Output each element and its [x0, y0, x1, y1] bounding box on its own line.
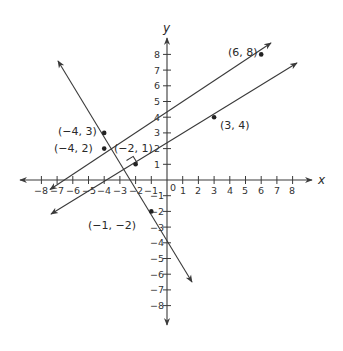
y-axis-label: y: [162, 21, 171, 35]
x-tick-label: 2: [195, 185, 201, 196]
point-6-8: [259, 52, 264, 57]
x-tick-label: 1: [180, 185, 186, 196]
x-tick-label: 5: [242, 185, 248, 196]
point-m4-3: [102, 131, 107, 136]
point-m4-2: [102, 146, 107, 151]
coordinate-graph: x y 0 −8 −7 −6 −5 −4 −3 −2 −1 1 2 3 4 5 …: [0, 0, 343, 351]
y-tick-label: −8: [150, 300, 164, 311]
point-m1-m2: [149, 209, 154, 214]
x-tick-label: −4: [97, 185, 111, 196]
point-3-4: [212, 115, 217, 120]
point-m2-1: [133, 162, 138, 167]
y-tick-label: 7: [154, 65, 160, 76]
x-ticks: −8 −7 −6 −5 −4 −3 −2 −1 1 2 3 4 5 6 7 8: [34, 176, 295, 196]
y-tick-label: −7: [150, 284, 164, 295]
origin-label: 0: [170, 182, 176, 193]
x-tick-label: 8: [289, 185, 295, 196]
x-tick-label: 6: [258, 185, 264, 196]
x-tick-label: −6: [66, 185, 80, 196]
label-m4-3: (−4, 3): [58, 125, 97, 138]
x-tick-label: −7: [50, 185, 64, 196]
label-3-4: (3, 4): [220, 119, 250, 132]
upper-parallel-line: [50, 43, 271, 190]
y-tick-label: 8: [154, 49, 160, 60]
x-axis-label: x: [317, 173, 326, 187]
label-6-8: (6, 8): [228, 46, 258, 59]
label-m1-m2: (−1, −2): [88, 219, 136, 232]
x-tick-label: −3: [113, 185, 127, 196]
x-tick-label: 7: [274, 185, 280, 196]
y-tick-label: −4: [150, 237, 164, 248]
y-tick-label: −1: [150, 190, 164, 201]
label-m2-1: (−2, 1): [114, 142, 153, 155]
x-tick-label: −8: [34, 185, 48, 196]
axes: x y 0: [20, 21, 326, 325]
y-tick-label: −6: [150, 269, 164, 280]
x-tick-label: 3: [211, 185, 217, 196]
y-tick-label: −5: [150, 253, 164, 264]
label-m4-2: (−4, 2): [54, 142, 93, 155]
y-tick-label: 5: [154, 96, 160, 107]
y-tick-label: 1: [154, 159, 160, 170]
x-tick-label: 4: [227, 185, 233, 196]
y-tick-label: 3: [154, 127, 160, 138]
lines: [50, 43, 297, 282]
y-tick-label: 6: [154, 80, 160, 91]
